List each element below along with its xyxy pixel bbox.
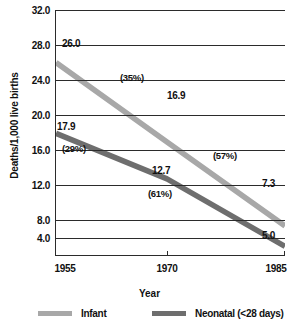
gridline-4	[55, 238, 285, 239]
legend-item-infant: Infant	[38, 308, 106, 319]
gridline-20	[55, 115, 285, 116]
data-label-neonatal-1985: 5.0	[262, 230, 275, 241]
gridline-8	[55, 220, 285, 221]
y-tick-label-8: 8.0	[4, 215, 50, 226]
y-tick-label-28: 28.0	[4, 40, 50, 51]
x-tick-label-1970: 1970	[156, 263, 177, 274]
legend-label-infant: Infant	[81, 308, 106, 319]
data-label-infant-1985: 7.3	[262, 178, 275, 189]
data-label-infant-1955: 26.0	[62, 38, 80, 49]
x-tick-mark-1955	[55, 251, 56, 256]
y-tick-label-32: 32.0	[4, 5, 50, 16]
annotation-neonatal-61pct: (61%)	[148, 188, 172, 199]
gridline-12	[55, 185, 285, 186]
gridline-32	[55, 10, 285, 11]
infant-series-line	[56, 63, 285, 227]
annotation-neonatal-29pct: (29%)	[62, 143, 86, 154]
data-label-infant-1970: 16.9	[167, 90, 185, 101]
y-tick-label-12: 12.0	[4, 180, 50, 191]
gridline-24	[55, 80, 285, 81]
y-tick-label-16: 16.0	[4, 145, 50, 156]
x-axis: 1955 1970 1985	[55, 256, 285, 278]
x-tick-mark-1970	[167, 251, 168, 256]
gridline-16	[55, 150, 285, 151]
gridline-28	[55, 45, 285, 46]
legend-label-neonatal: Neonatal (<28 days)	[195, 308, 284, 319]
legend-swatch-neonatal	[152, 311, 186, 316]
x-tick-label-1955: 1955	[54, 263, 75, 274]
annotation-infant-57pct: (57%)	[213, 150, 237, 161]
legend-item-neonatal: Neonatal (<28 days)	[152, 308, 284, 319]
x-axis-title: Year	[0, 288, 299, 299]
legend-swatch-infant	[38, 311, 72, 316]
y-tick-label-20: 20.0	[4, 110, 50, 121]
y-tick-label-24: 24.0	[4, 75, 50, 86]
infant-mortality-line-chart: Deaths/1,000 live births 32.0 28.0 24.0 …	[0, 0, 299, 334]
chart-legend: Infant Neonatal (<28 days)	[0, 308, 299, 330]
data-label-neonatal-1970: 12.7	[152, 165, 170, 176]
plot-area	[55, 10, 285, 256]
y-axis-tick-labels: 32.0 28.0 24.0 20.0 16.0 12.0 8.0 4.0	[4, 0, 50, 334]
annotation-infant-35pct: (35%)	[120, 72, 144, 83]
x-tick-mark-1985	[284, 251, 285, 256]
x-tick-label-1985: 1985	[265, 263, 286, 274]
y-tick-label-4: 4.0	[4, 233, 50, 244]
data-label-neonatal-1955: 17.9	[57, 121, 75, 132]
